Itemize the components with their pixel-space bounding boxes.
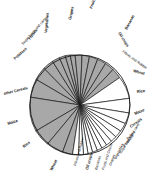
label-wheat-right: Wheat <box>133 68 146 76</box>
label-fruits-cocoa-top: Fruits and Cocoa <box>88 0 104 9</box>
label-potatoes-ul: Potatoes <box>12 46 28 61</box>
label-bananas-top: Bananas <box>123 13 135 30</box>
label-rice-left: Rice <box>22 139 32 148</box>
chart-canvas: Bananas Fruits and Cocoa Grapes Vegetabl… <box>0 0 164 196</box>
label-rice-right: Rice <box>136 88 146 94</box>
label-maize-left: Maize <box>7 118 19 126</box>
label-other-cereals-left: other Cereals <box>3 85 29 96</box>
label-oilcrops-upper-right: Oil crops <box>117 31 130 48</box>
label-grapes-top: Grapes <box>67 5 75 20</box>
label-wheat-bottom-left: Wheat <box>48 158 58 171</box>
pie-chart: Bananas Fruits and Cocoa Grapes Vegetabl… <box>0 0 164 196</box>
label-maize-right: Maize <box>134 107 146 116</box>
